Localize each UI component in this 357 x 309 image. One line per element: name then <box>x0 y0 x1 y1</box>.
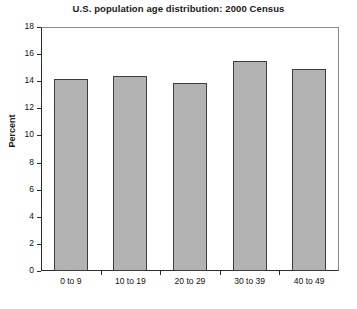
bar <box>113 76 147 271</box>
y-axis-tick-mark <box>37 244 41 245</box>
y-axis-label: Percent <box>7 101 17 161</box>
y-axis-tick-label: 6 <box>29 184 34 194</box>
bar <box>54 79 88 271</box>
y-axis-tick-mark <box>37 163 41 164</box>
y-axis-tick-mark <box>37 54 41 55</box>
bar <box>173 83 207 271</box>
y-axis-tick-label: 18 <box>25 21 34 31</box>
x-axis-tick-label: 30 to 39 <box>220 276 280 286</box>
x-axis-tick-mark <box>101 271 102 275</box>
bar <box>233 61 267 271</box>
y-axis-tick-label: 2 <box>29 238 34 248</box>
y-axis-tick-mark <box>37 190 41 191</box>
y-axis-tick-label: 12 <box>25 102 34 112</box>
y-axis-tick-label: 16 <box>25 48 34 58</box>
bar <box>292 69 326 271</box>
y-axis-tick-label: 8 <box>29 157 34 167</box>
y-axis-tick-mark <box>37 27 41 28</box>
y-axis-tick-mark <box>37 81 41 82</box>
y-axis-tick-mark <box>37 217 41 218</box>
y-axis-tick-label: 0 <box>29 265 34 275</box>
y-axis-tick-label: 14 <box>25 75 34 85</box>
y-axis-tick-mark <box>37 271 41 272</box>
x-axis-tick-label: 10 to 19 <box>101 276 161 286</box>
y-axis-tick-label: 10 <box>25 129 34 139</box>
x-axis-tick-label: 20 to 29 <box>160 276 220 286</box>
y-axis-tick-mark <box>37 135 41 136</box>
x-axis-tick-label: 40 to 49 <box>279 276 339 286</box>
y-axis-tick-label: 4 <box>29 211 34 221</box>
x-axis-tick-label: 0 to 9 <box>41 276 101 286</box>
x-axis-tick-mark <box>220 271 221 275</box>
y-axis-tick-mark <box>37 108 41 109</box>
bar-chart-figure: U.S. population age distribution: 2000 C… <box>0 0 357 309</box>
x-axis-tick-mark <box>279 271 280 275</box>
x-axis-tick-mark <box>160 271 161 275</box>
chart-title: U.S. population age distribution: 2000 C… <box>0 3 357 14</box>
